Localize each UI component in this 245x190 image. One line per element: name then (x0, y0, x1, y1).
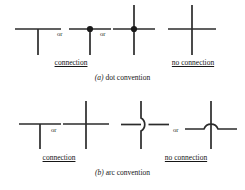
caption-b-tag: (b) (95, 168, 104, 177)
panel-arc-convention: or or (0, 95, 245, 190)
symbol-tee-junction-plain-a (14, 12, 62, 56)
group-label-connection-a: connection (36, 58, 106, 67)
or-separator-a2: or (100, 30, 106, 37)
circuit-junction-convention-figure: or or (0, 0, 245, 190)
caption-panel-b: (b) arc convention (0, 168, 245, 177)
or-separator-b2: or (173, 126, 179, 133)
symbol-arc-hop-horizontal (184, 100, 238, 150)
symbol-arc-jog-vertical (120, 100, 170, 150)
group-label-connection-b: connection (24, 153, 94, 162)
junction-dot-icon (131, 26, 137, 32)
panel-dot-convention: or or (0, 0, 245, 95)
symbol-cross-junction-plain-b (62, 100, 110, 150)
group-label-no-connection-b: no connection (150, 153, 222, 162)
caption-panel-a: (a) dot convention (0, 73, 245, 82)
caption-a-text: dot convention (105, 73, 150, 82)
symbol-cross-junction-plain-a (167, 4, 217, 56)
symbol-row-dot: or or (0, 0, 245, 58)
caption-a-tag: (a) (95, 73, 104, 82)
junction-dot-icon (87, 26, 93, 32)
symbol-row-arc: or or (0, 95, 245, 153)
or-separator-a1: or (57, 30, 63, 37)
group-label-no-connection-a: no connection (157, 58, 229, 67)
symbol-cross-junction-dot-a (112, 4, 156, 56)
caption-b-text: arc convention (106, 168, 150, 177)
or-separator-b1: or (51, 126, 57, 133)
